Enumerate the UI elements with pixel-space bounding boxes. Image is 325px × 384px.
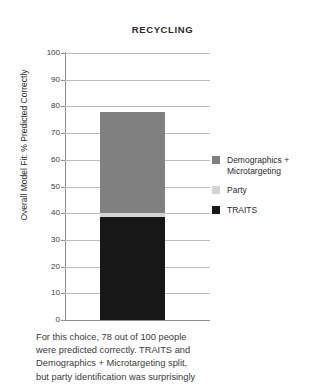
y-tick-label-0: 0	[34, 316, 60, 324]
legend-item-label: Party	[227, 185, 247, 196]
tick-mark-20	[61, 267, 65, 268]
y-tick-label-60: 60	[34, 156, 60, 164]
bar-segment-party[interactable]	[100, 213, 165, 217]
legend-item-0[interactable]: Demographics + Microtargeting	[212, 155, 325, 176]
caption-line-0: For this choice, 78 out of 100 people	[36, 331, 308, 344]
bar-segment-traits[interactable]	[100, 217, 165, 320]
legend-item-1[interactable]: Party	[212, 185, 325, 196]
tick-mark-10	[61, 293, 65, 294]
x-axis-line	[65, 320, 210, 321]
y-tick-label-20: 20	[34, 263, 60, 271]
tick-mark-60	[61, 160, 65, 161]
y-tick-label-90: 90	[34, 76, 60, 84]
legend-swatch-icon	[212, 186, 220, 194]
tick-mark-40	[61, 213, 65, 214]
legend-item-2[interactable]: TRAITS	[212, 205, 325, 216]
tick-mark-50	[61, 187, 65, 188]
y-tick-label-80: 80	[34, 102, 60, 110]
y-tick-label-70: 70	[34, 129, 60, 137]
y-tick-label-10: 10	[34, 289, 60, 297]
y-tick-label-40: 40	[34, 209, 60, 217]
tick-mark-70	[61, 133, 65, 134]
chart-legend: Demographics + MicrotargetingPartyTRAITS	[212, 155, 325, 224]
caption-line-2: Demographics + Microtargeting split,	[36, 357, 308, 370]
legend-item-label: TRAITS	[227, 205, 257, 216]
y-tick-label-30: 30	[34, 236, 60, 244]
caption-line-1: were predicted correctly. TRAITS and	[36, 344, 308, 357]
tick-mark-80	[61, 106, 65, 107]
caption-line-3: but party identification was surprisingl…	[36, 371, 308, 384]
y-tick-label-100: 100	[34, 49, 60, 57]
y-axis-title: Overall Model Fit: % Predicted Correctly	[19, 45, 29, 245]
y-tick-label-50: 50	[34, 183, 60, 191]
tick-mark-0	[61, 320, 65, 321]
chart-caption: For this choice, 78 out of 100 peoplewer…	[36, 331, 308, 384]
tick-mark-30	[61, 240, 65, 241]
legend-swatch-icon	[212, 156, 220, 164]
gridline-90	[65, 80, 210, 81]
gridline-80	[65, 106, 210, 107]
legend-swatch-icon	[212, 206, 220, 214]
gridline-100	[65, 53, 210, 54]
tick-mark-90	[61, 80, 65, 81]
bar-segment-demographics-microtargeting[interactable]	[100, 112, 165, 213]
legend-item-label: Demographics + Microtargeting	[227, 155, 325, 176]
y-axis-tick-labels: 1009080706050403020100	[30, 0, 60, 377]
tick-mark-100	[61, 53, 65, 54]
